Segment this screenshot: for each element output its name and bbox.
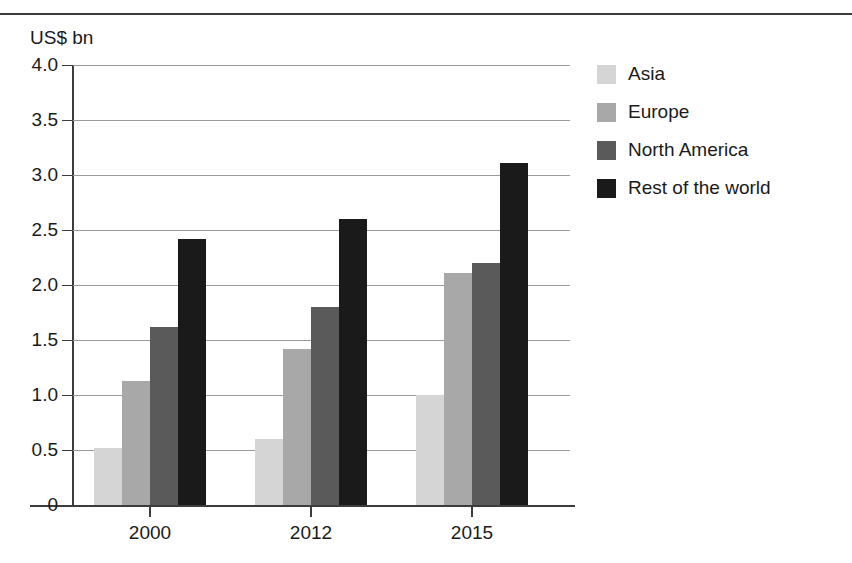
y-axis-unit-caption: US$ bn	[30, 27, 93, 49]
gridline	[72, 120, 570, 121]
x-axis-tick-label: 2000	[129, 522, 171, 544]
chart-legend: AsiaEuropeNorth AmericaRest of the world	[597, 55, 771, 207]
bar	[255, 439, 283, 505]
y-axis-tick-label-wrap: 0.5	[0, 440, 58, 459]
chart-figure: US$ bn 00.51.01.52.02.53.03.54.0 2000201…	[0, 0, 852, 563]
legend-item: Europe	[597, 93, 771, 131]
y-axis-tick	[62, 175, 73, 176]
legend-swatch-icon	[597, 103, 616, 122]
y-axis-tick	[62, 65, 73, 66]
legend-item-label: Rest of the world	[628, 177, 771, 199]
bar	[94, 448, 122, 505]
y-axis-tick-label-wrap: 1.0	[0, 385, 58, 404]
y-axis-tick	[62, 395, 73, 396]
plot-area	[72, 65, 570, 505]
legend-item-label: Europe	[628, 101, 689, 123]
y-axis-tick-label: 3.5	[2, 110, 58, 129]
legend-swatch-icon	[597, 141, 616, 160]
y-axis-tick	[62, 120, 73, 121]
gridline	[72, 230, 570, 231]
bar	[444, 273, 472, 505]
gridline	[72, 65, 570, 66]
bar	[283, 349, 311, 505]
legend-item-label: Asia	[628, 63, 665, 85]
bar	[178, 239, 206, 505]
y-axis-tick-label-wrap: 3.0	[0, 165, 58, 184]
y-axis-tick-label: 0.5	[2, 440, 58, 459]
y-axis-tick-label: 3.0	[2, 165, 58, 184]
bar	[339, 219, 367, 505]
bar	[311, 307, 339, 505]
y-axis-tick-label: 2.5	[2, 220, 58, 239]
y-axis-tick-label: 1.0	[2, 385, 58, 404]
x-axis-tick-label: 2012	[290, 522, 332, 544]
bar	[416, 395, 444, 505]
y-axis-tick-label-wrap: 1.5	[0, 330, 58, 349]
y-axis-tick-label-wrap: 2.5	[0, 220, 58, 239]
y-axis-tick-label: 4.0	[2, 55, 58, 74]
bar	[122, 381, 150, 505]
x-axis-line	[30, 505, 575, 507]
y-axis-tick-label-wrap: 3.5	[0, 110, 58, 129]
legend-swatch-icon	[597, 65, 616, 84]
y-axis-tick	[62, 450, 73, 451]
top-horizontal-rule	[0, 13, 852, 15]
y-axis-tick-label: 2.0	[2, 275, 58, 294]
bar	[472, 263, 500, 505]
y-axis-tick-label: 1.5	[2, 330, 58, 349]
y-axis-tick	[62, 285, 73, 286]
y-axis-tick-label-wrap: 4.0	[0, 55, 58, 74]
gridline	[72, 175, 570, 176]
bar	[500, 163, 528, 505]
legend-item: Asia	[597, 55, 771, 93]
y-axis-tick	[62, 340, 73, 341]
legend-item-label: North America	[628, 139, 748, 161]
y-axis-tick-label: 0	[2, 495, 58, 514]
x-axis-tick-label: 2015	[451, 522, 493, 544]
x-axis-tick	[149, 506, 151, 517]
y-axis-tick	[62, 505, 73, 506]
y-axis-tick	[62, 230, 73, 231]
bar	[150, 327, 178, 505]
legend-item: Rest of the world	[597, 169, 771, 207]
legend-swatch-icon	[597, 179, 616, 198]
legend-item: North America	[597, 131, 771, 169]
y-axis-tick-label-wrap: 0	[0, 495, 58, 514]
y-axis-tick-label-wrap: 2.0	[0, 275, 58, 294]
x-axis-tick	[471, 506, 473, 517]
x-axis-tick	[310, 506, 312, 517]
